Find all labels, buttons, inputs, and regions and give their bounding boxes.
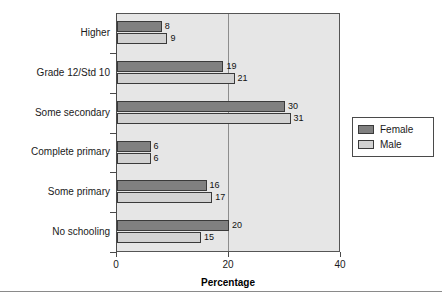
bar-male	[117, 232, 201, 243]
bar-value-label: 6	[154, 153, 159, 164]
bar-male	[117, 192, 212, 203]
category-label: Complete primary	[6, 146, 110, 158]
bar-female	[117, 21, 162, 32]
bar-group: 3031	[117, 94, 339, 134]
x-tick-20	[228, 252, 229, 257]
x-tick-0	[116, 252, 117, 257]
legend-item-male[interactable]: Male	[358, 137, 428, 152]
bar-value-label: 19	[226, 61, 236, 72]
bar-group: 1617	[117, 173, 339, 213]
bar-female	[117, 141, 151, 152]
bar-male	[117, 153, 151, 164]
bar-female	[117, 61, 223, 72]
bar-group: 66	[117, 134, 339, 174]
category-label: Higher	[6, 27, 110, 39]
bar-value-label: 16	[210, 180, 220, 191]
bar-female	[117, 220, 229, 231]
bar-group: 89	[117, 14, 339, 54]
bar-male	[117, 33, 167, 44]
bar-value-label: 31	[294, 113, 304, 124]
bar-female	[117, 101, 285, 112]
bar-value-label: 9	[170, 33, 175, 44]
x-tick-label-40: 40	[325, 259, 355, 271]
bar-group: 2015	[117, 213, 339, 253]
bar-value-label: 20	[232, 220, 242, 231]
bar-group: 1921	[117, 54, 339, 94]
category-label: No schooling	[6, 226, 110, 238]
category-label: Grade 12/Std 10	[6, 67, 110, 79]
legend: Female Male	[352, 117, 434, 157]
legend-label-female: Female	[380, 124, 413, 136]
x-axis-title: Percentage	[116, 277, 340, 288]
bar-value-label: 6	[154, 141, 159, 152]
category-label: Some primary	[6, 186, 110, 198]
plot-area: 89192130316616172015	[116, 13, 340, 252]
legend-item-female[interactable]: Female	[358, 122, 428, 137]
y-tick	[110, 252, 116, 253]
bar-value-label: 17	[215, 192, 225, 203]
y-tick	[110, 93, 116, 94]
y-axis-line	[116, 13, 117, 252]
legend-swatch-male-icon	[358, 140, 374, 149]
bar-female	[117, 180, 207, 191]
y-tick	[110, 53, 116, 54]
bar-chart: 89192130316616172015 0 20 40 Percentage …	[0, 0, 442, 298]
bar-value-label: 21	[238, 73, 248, 84]
bar-value-label: 30	[288, 101, 298, 112]
bar-male	[117, 113, 291, 124]
y-tick	[110, 212, 116, 213]
footer-divider	[0, 291, 442, 292]
bar-male	[117, 73, 235, 84]
category-label: Some secondary	[6, 107, 110, 119]
y-tick	[110, 172, 116, 173]
y-tick	[110, 133, 116, 134]
legend-swatch-female-icon	[358, 125, 374, 134]
bar-value-label: 15	[204, 232, 214, 243]
x-tick-40	[340, 252, 341, 257]
legend-label-male: Male	[380, 139, 402, 151]
bar-value-label: 8	[165, 21, 170, 32]
x-tick-label-20: 20	[213, 259, 243, 271]
x-tick-label-0: 0	[101, 259, 131, 271]
